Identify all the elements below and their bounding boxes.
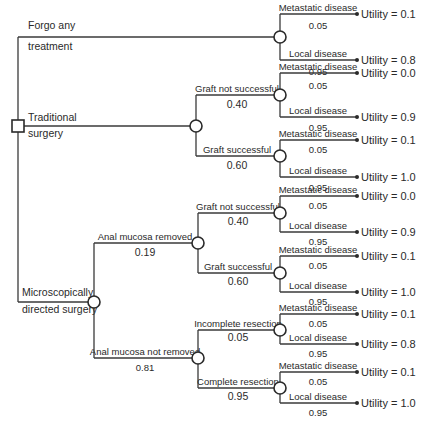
option-forgo-line2: treatment [28, 40, 72, 52]
svg-text:Utility = 0.8: Utility = 0.8 [361, 338, 416, 350]
svg-text:Graft not successful: Graft not successful [196, 201, 280, 212]
svg-text:Complete resection: Complete resection [197, 376, 279, 387]
svg-text:Utility = 0.1: Utility = 0.1 [361, 134, 416, 146]
svg-text:Local disease: Local disease [289, 105, 347, 116]
svg-text:Metastatic disease: Metastatic disease [279, 128, 358, 139]
chance-node-incomplete-resection[interactable] [274, 324, 286, 336]
svg-text:Utility = 1.0: Utility = 1.0 [361, 171, 416, 183]
decision-tree: Forgo any treatment Traditional surgery … [0, 0, 425, 426]
chance-node-mucosa-not-removed[interactable] [192, 352, 204, 364]
svg-text:Utility = 0.0: Utility = 0.0 [361, 190, 416, 202]
svg-text:0.95: 0.95 [309, 348, 328, 359]
chance-node-micro[interactable] [88, 296, 100, 308]
chance-node-mucosa-removed[interactable] [192, 237, 204, 249]
svg-text:Metastatic disease: Metastatic disease [279, 360, 358, 371]
svg-text:0.05: 0.05 [309, 260, 328, 271]
svg-text:Utility = 0.0: Utility = 0.0 [361, 67, 416, 79]
svg-text:Utility = 1.0: Utility = 1.0 [361, 286, 416, 298]
svg-text:Local disease: Local disease [289, 48, 347, 59]
chance-node-trad-graft-fail[interactable] [274, 89, 286, 101]
svg-text:Local disease: Local disease [289, 220, 347, 231]
option-micro-line1: Microscopically [22, 286, 94, 298]
option-forgo-line1: Forgo any [28, 19, 76, 31]
svg-text:Utility = 0.1: Utility = 0.1 [361, 308, 416, 320]
svg-text:0.95: 0.95 [309, 407, 328, 418]
svg-text:0.05: 0.05 [309, 144, 328, 155]
svg-text:0.05: 0.05 [309, 80, 328, 91]
svg-text:Graft successful: Graft successful [203, 144, 271, 155]
svg-text:0.95: 0.95 [228, 390, 249, 402]
svg-text:Local disease: Local disease [289, 332, 347, 343]
svg-text:0.05: 0.05 [309, 20, 328, 31]
svg-text:0.60: 0.60 [228, 275, 249, 287]
svg-text:0.60: 0.60 [227, 159, 248, 171]
micro-subtree: Anal mucosa removed 0.19 Anal mucosa not… [88, 184, 416, 418]
svg-text:0.40: 0.40 [228, 215, 249, 227]
option-traditional-line2: surgery [28, 127, 64, 139]
svg-text:Utility = 0.8: Utility = 0.8 [361, 54, 416, 66]
chance-node-forgo[interactable] [274, 31, 286, 43]
svg-text:Utility = 0.1: Utility = 0.1 [361, 8, 416, 20]
option-traditional-line1: Traditional [28, 111, 77, 123]
svg-text:0.05: 0.05 [309, 200, 328, 211]
svg-text:Metastatic disease: Metastatic disease [279, 184, 358, 195]
svg-text:Utility = 0.9: Utility = 0.9 [361, 111, 416, 123]
svg-text:Utility = 0.9: Utility = 0.9 [361, 226, 416, 238]
svg-text:0.19: 0.19 [135, 246, 156, 258]
svg-text:0.05: 0.05 [228, 331, 249, 343]
svg-text:Metastatic disease: Metastatic disease [279, 2, 358, 13]
svg-text:0.05: 0.05 [309, 318, 328, 329]
svg-text:Anal mucosa removed: Anal mucosa removed [98, 231, 193, 242]
svg-text:Graft not successful: Graft not successful [195, 83, 279, 94]
svg-text:Utility = 0.1: Utility = 0.1 [361, 366, 416, 378]
svg-text:Utility = 0.1: Utility = 0.1 [361, 250, 416, 262]
svg-text:Graft successful: Graft successful [204, 261, 272, 272]
svg-text:Local disease: Local disease [289, 391, 347, 402]
svg-text:0.40: 0.40 [227, 98, 248, 110]
svg-text:Metastatic disease: Metastatic disease [279, 61, 358, 72]
chance-node-trad-graft-success[interactable] [274, 150, 286, 162]
svg-text:0.81: 0.81 [136, 362, 155, 373]
traditional-subtree: Graft not successful 0.40 Graft successf… [190, 61, 416, 193]
svg-text:Local disease: Local disease [289, 280, 347, 291]
svg-text:Local disease: Local disease [289, 165, 347, 176]
chance-node-complete-resection[interactable] [274, 382, 286, 394]
svg-text:Anal mucosa not removed: Anal mucosa not removed [90, 346, 200, 357]
decision-node[interactable] [12, 120, 24, 132]
svg-text:Metastatic disease: Metastatic disease [279, 244, 358, 255]
svg-text:Metastatic disease: Metastatic disease [279, 302, 358, 313]
chance-node-micro-graft-fail[interactable] [274, 207, 286, 219]
option-micro-line2: directed surgery [22, 303, 98, 315]
svg-text:Utility = 1.0: Utility = 1.0 [361, 397, 416, 409]
chance-node-micro-graft-success[interactable] [274, 267, 286, 279]
svg-text:Incomplete resection: Incomplete resection [194, 318, 282, 329]
svg-text:0.05: 0.05 [309, 376, 328, 387]
chance-node-traditional[interactable] [190, 120, 202, 132]
